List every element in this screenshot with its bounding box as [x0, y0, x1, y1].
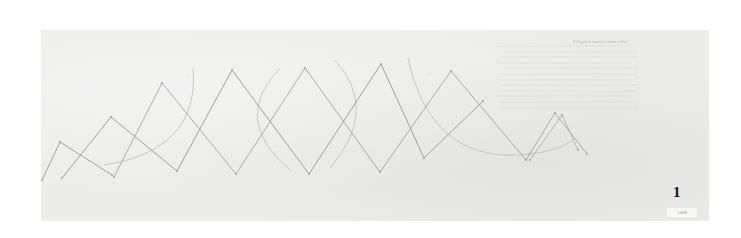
vertex-mark — [161, 82, 163, 84]
arc-left — [104, 68, 193, 165]
vertex-mark — [423, 157, 425, 159]
notes-title: [illegible handwritten title] — [495, 38, 705, 45]
vertex-mark — [111, 174, 113, 176]
vertex-mark — [308, 173, 310, 175]
arc-label: ~~~ — [272, 68, 279, 73]
vertex-mark — [113, 176, 115, 178]
vertex-mark — [61, 177, 63, 179]
vertex-mark — [554, 112, 556, 114]
vertex-mark — [41, 179, 43, 181]
plate-number: 1 — [673, 184, 681, 201]
vertex-mark — [586, 153, 588, 155]
vertex-mark — [450, 70, 452, 72]
vertex-mark — [379, 171, 381, 173]
vertex-mark — [380, 63, 382, 65]
handwritten-notes: [illegible handwritten title] ~~~~~~~~~~… — [495, 38, 705, 112]
vertex-mark — [561, 114, 563, 116]
vertex-mark — [529, 159, 531, 161]
zigzag-a — [42, 142, 112, 180]
vertex-mark — [235, 173, 237, 175]
arc-middle-right — [330, 60, 356, 168]
vertex-mark — [231, 69, 233, 71]
vertex-mark — [176, 170, 178, 172]
arc-label: ~~~ — [185, 74, 192, 79]
vertex-mark — [482, 100, 484, 102]
vertex-mark — [59, 141, 61, 143]
vertex-mark — [577, 149, 579, 151]
vertex-mark — [304, 67, 306, 69]
note-line: ~~~~~~~~~~~~~~~~~~~~~~~~~~~~~~~~~~~~~~~~… — [495, 107, 705, 113]
arc-label: ~~~ — [426, 72, 433, 77]
notes-body: ~~~~~~~~~~~~~~~~~~~~~~~~~~~~~~~~~~~~~~~~… — [495, 45, 705, 112]
vertex-mark — [525, 159, 527, 161]
arc-middle-left — [257, 68, 290, 170]
vertex-mark — [110, 116, 112, 118]
catalog-label: 12098 — [667, 208, 697, 217]
pencil-drawing: ~~~~~~~~~ — [0, 0, 741, 238]
